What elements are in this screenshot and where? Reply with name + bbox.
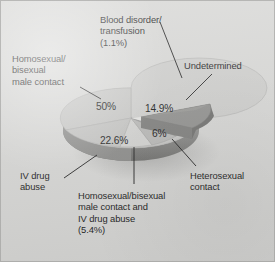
label-heterosexual-contact: Heterosexual contact (190, 170, 244, 193)
value-label-iv-drug-abuse: 22.6% (100, 135, 128, 146)
value-label-homosexual-bisexual: 50% (96, 101, 116, 112)
label-undetermined: Undetermined (184, 60, 242, 71)
value-label-heterosexual: 6% (152, 128, 166, 139)
value-label-undetermined: 14.9% (145, 103, 173, 114)
pie-chart-figure: Blood disorder/ transfusion (1.1%) Homos… (0, 0, 275, 262)
label-combined-homosexual-and-iv-drug: Homosexual/bisexual male contact and IV … (78, 190, 165, 236)
label-iv-drug-abuse: IV drug abuse (20, 170, 50, 193)
label-blood-disorder-transfusion: Blood disorder/ transfusion (1.1%) (100, 14, 162, 48)
label-homosexual-bisexual-male-contact: Homosexual/ bisexual male contact (12, 53, 66, 87)
